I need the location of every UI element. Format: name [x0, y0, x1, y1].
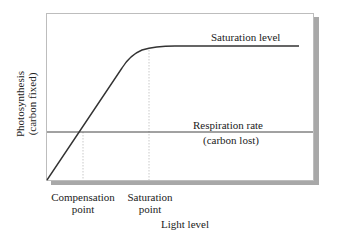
saturation-level-label: Saturation level	[211, 31, 280, 43]
saturation-point-line-1: Saturation	[124, 191, 176, 203]
compensation-point-label: Compensation point	[48, 191, 118, 215]
saturation-point-line-2: point	[124, 203, 176, 215]
respiration-sub-label: (carbon lost)	[203, 134, 259, 146]
y-axis-label: Photosynthesis (carbon fixed)	[14, 60, 38, 148]
y-axis-label-line-2: (carbon fixed)	[26, 60, 38, 148]
y-axis-label-line-1: Photosynthesis	[14, 60, 26, 148]
respiration-rate-label: Respiration rate	[193, 119, 263, 131]
compensation-point-line-2: point	[48, 203, 118, 215]
saturation-point-label: Saturation point	[124, 191, 176, 215]
compensation-point-line-1: Compensation	[48, 191, 118, 203]
x-axis-label: Light level	[161, 218, 209, 230]
photosynthesis-curve	[47, 46, 299, 180]
